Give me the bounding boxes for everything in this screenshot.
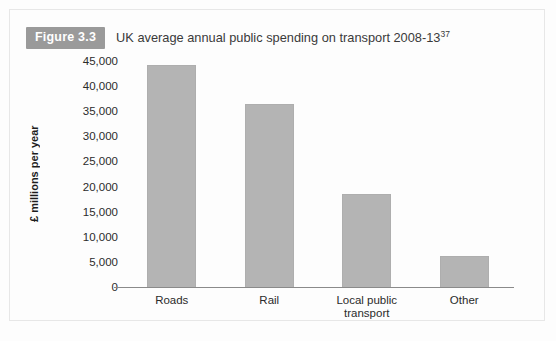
x-tick-label-line: Other	[412, 294, 516, 307]
y-tick-label: 20,000	[46, 182, 118, 194]
y-tick-label: 5,000	[46, 257, 118, 269]
x-axis-line	[114, 287, 514, 288]
x-tick-label-line: Rail	[217, 294, 321, 307]
x-tick-label: Other	[412, 294, 516, 307]
x-tick-label-line: Local public	[315, 294, 419, 307]
x-tick-label: Roads	[120, 294, 224, 307]
x-tick-label: Rail	[217, 294, 321, 307]
y-tick-label: 0	[46, 282, 118, 294]
y-tick-label: 15,000	[46, 207, 118, 219]
bar	[245, 104, 294, 288]
y-tick-label: 45,000	[46, 56, 118, 68]
plot-area	[123, 62, 513, 288]
bar-chart: £ millions per year 05,00010,00015,00020…	[10, 10, 546, 322]
figure-frame: Figure 3.3 UK average annual public spen…	[9, 9, 545, 321]
y-tick-label: 10,000	[46, 232, 118, 244]
bar	[147, 65, 196, 288]
x-axis-tick-labels: RoadsRailLocal publictransportOther	[123, 294, 513, 328]
y-tick-label: 25,000	[46, 157, 118, 169]
y-axis-tick-labels: 05,00010,00015,00020,00025,00030,00035,0…	[46, 62, 118, 288]
y-tick-label: 30,000	[46, 132, 118, 144]
x-tick-label: Local publictransport	[315, 294, 419, 320]
y-tick-label: 40,000	[46, 81, 118, 93]
y-tick-label: 35,000	[46, 106, 118, 118]
bar	[440, 256, 489, 288]
x-tick-label-line: Roads	[120, 294, 224, 307]
x-tick-label-line: transport	[315, 307, 419, 320]
y-axis-title: £ millions per year	[26, 114, 42, 234]
bar	[342, 194, 391, 288]
